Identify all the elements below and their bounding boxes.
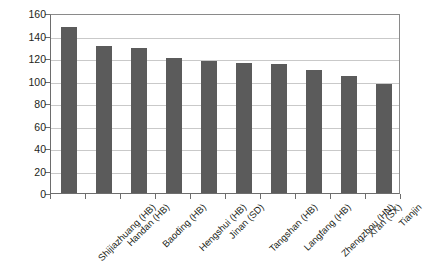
y-axis-tick-label: 120	[0, 54, 46, 65]
y-axis-tick-label: 60	[0, 122, 46, 133]
bar	[236, 63, 252, 194]
bar	[96, 46, 112, 193]
x-axis-tick-mark	[190, 194, 191, 199]
plot-area	[50, 14, 400, 194]
x-axis-tick-mark	[225, 194, 226, 199]
x-axis-origin-tick-mark	[50, 194, 51, 199]
y-axis-tick-label: 100	[0, 77, 46, 88]
bar	[131, 48, 147, 193]
y-axis-tick-label: 160	[0, 9, 46, 20]
y-axis-tick-label: 20	[0, 167, 46, 178]
bar	[271, 64, 287, 193]
bar	[341, 76, 357, 193]
bar	[306, 70, 322, 193]
bar	[201, 61, 217, 193]
y-axis-tick-label: 80	[0, 99, 46, 110]
x-axis-tick-mark	[260, 194, 261, 199]
x-axis-tick-mark	[365, 194, 366, 199]
x-axis-tick-mark	[155, 194, 156, 199]
x-axis-tick-mark	[330, 194, 331, 199]
bar	[61, 27, 77, 194]
x-axis-tick-mark	[120, 194, 121, 199]
x-axis-tick-mark	[85, 194, 86, 199]
x-axis-tick-mark	[400, 194, 401, 199]
bar	[166, 58, 182, 193]
gridline	[51, 38, 399, 39]
y-axis-tick-label: 140	[0, 32, 46, 43]
x-axis-tick-mark	[295, 194, 296, 199]
y-axis-tick-label: 0	[0, 189, 46, 200]
y-axis-tick-label: 40	[0, 144, 46, 155]
bar	[376, 84, 392, 193]
